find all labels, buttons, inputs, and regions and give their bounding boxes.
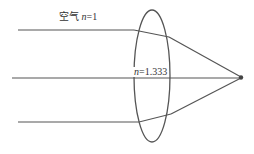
bottom-ray-exit <box>171 78 241 114</box>
air-label-value: =1 <box>87 11 98 22</box>
lens-label-value: =1.333 <box>139 66 167 77</box>
refraction-diagram <box>0 0 254 154</box>
focus-point <box>239 75 243 79</box>
lens-index-label: n=1.333 <box>133 67 168 77</box>
air-label: 空气 n=1 <box>59 12 97 22</box>
top-ray-exit <box>169 37 241 77</box>
air-label-prefix: 空气 <box>59 11 79 22</box>
